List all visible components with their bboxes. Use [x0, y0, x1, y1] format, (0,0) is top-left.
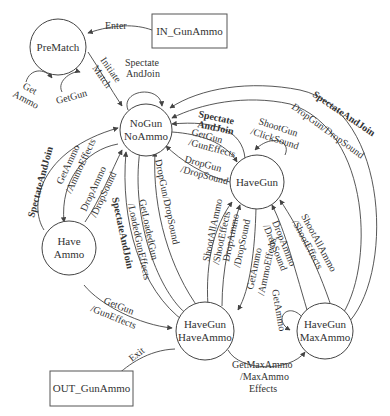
state-label: HaveGun [304, 318, 347, 330]
edge-label-getgun: GetGun [55, 87, 88, 106]
state-havegun-haveammo: HaveGun HaveAmmo [176, 302, 234, 360]
state-havegun: HaveGun [230, 155, 284, 209]
out-gunammo-box: OUT_GunAmmo [50, 371, 133, 406]
state-label: NoAmmo [124, 130, 169, 142]
state-nogun-noammo: NoGun NoAmmo [120, 104, 172, 156]
state-label: NoGun [130, 117, 163, 129]
state-label: HaveGun [184, 318, 227, 330]
edge-label-exit: Exit [126, 345, 146, 364]
edge-label: /MaxAmmo [240, 371, 289, 382]
state-haveammo: Have Ammo [42, 221, 96, 275]
edge-label: DropGun/DropSound [290, 101, 367, 161]
state-havegun-maxammo: HaveGun MaxAmmo [297, 303, 353, 359]
in-gunammo-box: IN_GunAmmo [152, 14, 227, 48]
edge-label: Spectate [125, 57, 159, 68]
out-box-label: OUT_GunAmmo [53, 382, 131, 394]
state-label: MaxAmmo [300, 331, 351, 343]
edge-label: Effects [249, 383, 277, 394]
in-box-label: IN_GunAmmo [156, 25, 223, 37]
edge-label: GetAmmo [270, 288, 288, 331]
state-prematch: PreMatch [30, 19, 86, 75]
edge-label: SpectateAndJoin [25, 145, 55, 219]
edge-label: GetMaxAmmo [232, 359, 293, 370]
state-label: PreMatch [37, 41, 80, 53]
state-label: HaveGun [236, 176, 279, 188]
state-label: HaveAmmo [178, 331, 232, 343]
state-diagram: Enter Initiate Match Get Ammo GetGun Spe… [0, 0, 390, 416]
edge-label-enter: Enter [105, 20, 127, 31]
state-label: Ammo [54, 248, 85, 260]
state-label: Have [57, 235, 80, 247]
edge-label: AndJoin [126, 68, 160, 79]
